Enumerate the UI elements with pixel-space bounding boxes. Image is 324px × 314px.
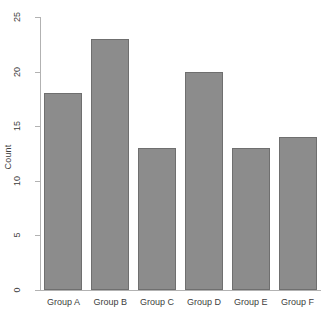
bar [185, 72, 223, 290]
y-tick-label: 15 [11, 111, 23, 141]
x-tick-label: Group B [87, 296, 134, 309]
x-tick-label: Group C [134, 296, 181, 309]
y-tick-label: 0 [11, 275, 23, 305]
x-tick-label: Group E [227, 296, 274, 309]
y-tick-label: 5 [11, 220, 23, 250]
x-axis-line [40, 290, 321, 291]
bar [138, 148, 176, 290]
x-tick-label: Group A [40, 296, 87, 309]
bar [279, 137, 317, 290]
bar-chart: Count 0510152025 Group AGroup BGroup CGr… [0, 0, 324, 314]
plot-area [40, 17, 321, 290]
y-axis-label: Count [0, 0, 16, 314]
bar [232, 148, 270, 290]
x-tick-label: Group D [181, 296, 228, 309]
y-tick-label: 25 [11, 2, 23, 32]
y-tick-label: 20 [11, 57, 23, 87]
y-tick-mark [35, 290, 40, 291]
x-tick-label: Group F [274, 296, 321, 309]
bar [44, 93, 82, 290]
y-tick-label: 10 [11, 166, 23, 196]
bar [91, 39, 129, 290]
